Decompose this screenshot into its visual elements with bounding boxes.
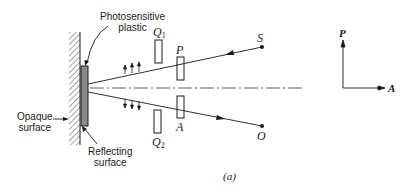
label-analyzer-a: A: [176, 121, 183, 133]
quarter-wave-plate-q1: [155, 40, 162, 63]
polarization-up-arrows: [124, 62, 141, 74]
label-opaque-surface: Opaque surface: [17, 111, 53, 133]
observer-point: [260, 124, 264, 128]
polarizer-p: [177, 57, 184, 80]
label-source-s: S: [257, 32, 263, 44]
label-q2: Q2: [152, 136, 165, 152]
label-polarizer-p: P: [176, 44, 183, 56]
polarization-axes: [341, 40, 385, 90]
photosensitive-plastic-plate: [81, 66, 88, 126]
label-q1: Q1: [153, 26, 166, 42]
source-point: [260, 45, 264, 49]
label-axis-p: P: [339, 27, 346, 39]
figure-caption: (a): [223, 170, 236, 182]
label-observer-o: O: [257, 130, 266, 142]
quarter-wave-plate-q2: [154, 110, 161, 133]
polarization-down-arrows: [124, 99, 141, 110]
opaque-wall: [69, 32, 80, 145]
reflection-polariscope-diagram: [0, 0, 412, 192]
analyzer-a: [177, 96, 184, 118]
label-axis-a: A: [388, 82, 395, 94]
leader-reflecting: [84, 128, 97, 144]
label-reflecting-surface: Reflecting surface: [88, 146, 132, 168]
